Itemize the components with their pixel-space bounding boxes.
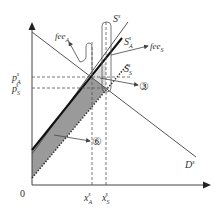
fee-a-label: feeA (55, 31, 70, 43)
x-axis-arrow-icon (203, 182, 211, 189)
demand-label: Ds (184, 159, 195, 170)
quantity-s-label: xSs (101, 191, 109, 205)
supply-label: Ss (113, 13, 121, 24)
area-6-shading (32, 77, 106, 178)
supply-s-curve (32, 64, 128, 178)
origin-label: 0 (20, 188, 25, 199)
supply-a-label: SAs (124, 35, 133, 49)
fee-a-arrow (69, 42, 80, 62)
supply-a-curve (32, 38, 122, 150)
area-6-label: ⑥ (92, 135, 102, 147)
fee-a-bracket (80, 43, 92, 77)
supply-s-label: SSs (124, 62, 132, 76)
area-3-label: ③ (139, 80, 149, 92)
fee-s-label: feeS (150, 41, 164, 53)
quantity-a-label: xAs (83, 191, 92, 205)
y-axis-arrow-icon (29, 22, 36, 30)
supply-demand-diagram: 0 pAs pSs xAs xSs Ds Ss SAs SSs feeA fee… (0, 0, 215, 209)
